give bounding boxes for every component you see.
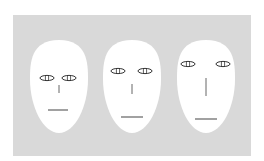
figure <box>0 0 264 161</box>
faces-group <box>30 40 235 133</box>
faces-diagram <box>0 0 264 161</box>
